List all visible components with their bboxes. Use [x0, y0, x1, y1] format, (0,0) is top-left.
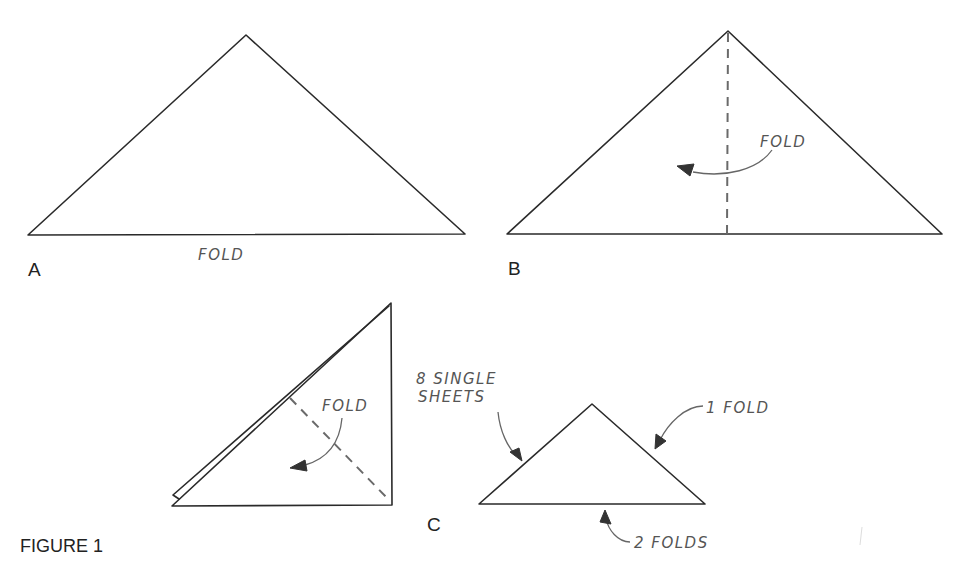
panel-c-final: 8 SINGLE SHEETS 1 FOLD 2 FOLDS C	[416, 370, 770, 552]
arrow-head-c	[290, 460, 307, 471]
two-folds-label: 2 FOLDS	[634, 534, 709, 552]
sheets-arrow	[498, 412, 515, 454]
stray-mark	[860, 527, 862, 545]
panel-label-c: C	[427, 514, 441, 535]
fold-arrow-c	[305, 418, 342, 465]
panel-a: FOLD A	[28, 35, 465, 280]
single-sheets-label-1: 8 SINGLE	[416, 370, 497, 388]
fold-arrow-b	[693, 150, 772, 174]
arrow-head-b	[677, 164, 694, 176]
panel-c-folded: FOLD	[172, 303, 392, 506]
fold-line-b	[727, 33, 728, 234]
fold-label-b: FOLD	[760, 133, 806, 151]
folding-diagram: FOLD A FOLD B FOLD 8 SINGLE SHEETS 1 FOL…	[0, 0, 966, 583]
one-fold-arrow	[660, 406, 703, 440]
panel-label-b: B	[508, 258, 521, 279]
one-fold-label: 1 FOLD	[706, 399, 770, 417]
figure-title: FIGURE 1	[20, 536, 103, 556]
triangle-b	[507, 31, 942, 234]
panel-b: FOLD B	[507, 31, 942, 279]
panel-label-a: A	[28, 259, 41, 280]
two-folds-arrow-head	[600, 510, 611, 524]
single-sheets-label-2: SHEETS	[418, 388, 485, 406]
fold-label-c: FOLD	[322, 397, 368, 415]
fold-label-a: FOLD	[198, 246, 244, 264]
one-fold-arrow-head	[655, 434, 666, 449]
triangle-a	[28, 35, 465, 235]
